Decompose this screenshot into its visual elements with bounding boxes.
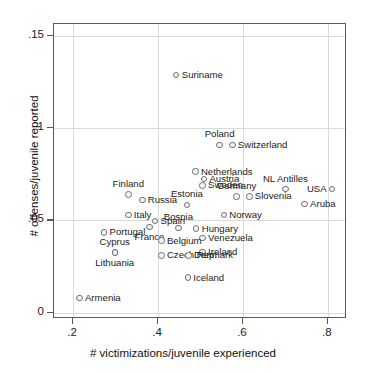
gridline-vertical — [158, 24, 159, 317]
gridline-horizontal — [54, 220, 345, 221]
data-point — [233, 193, 239, 199]
data-point-label: Lithuania — [95, 258, 134, 268]
data-point-label: Cyprus — [100, 238, 130, 248]
gridline-horizontal — [54, 36, 345, 37]
data-point — [146, 224, 152, 230]
plot-area: SurinamePolandSwitzerlandNetherlandsAust… — [53, 23, 346, 318]
data-point-label: Iceland — [193, 273, 224, 283]
y-tick-mark — [47, 127, 53, 128]
data-point-label: NL Antilles — [263, 174, 308, 184]
data-point — [125, 191, 131, 197]
data-point — [139, 197, 145, 203]
data-point — [112, 249, 118, 255]
data-point — [125, 212, 131, 218]
data-point — [175, 225, 181, 231]
data-point — [185, 252, 191, 258]
data-point — [216, 142, 222, 148]
data-point-label: Aruba — [310, 199, 336, 209]
data-point-label: Venezuela — [208, 233, 253, 243]
data-point — [173, 72, 179, 78]
data-point-label: Italy — [134, 210, 152, 220]
x-tick-mark — [242, 318, 243, 324]
data-point — [199, 182, 205, 188]
x-tick-label: .8 — [307, 326, 347, 338]
gridline-vertical — [73, 24, 74, 317]
data-point-label: Belgium — [167, 236, 202, 246]
gridline-horizontal — [54, 128, 345, 129]
data-point — [192, 168, 198, 174]
x-tick-mark — [157, 318, 158, 324]
scatter-plot-figure: SurinamePolandSwitzerlandNetherlandsAust… — [0, 0, 366, 373]
x-tick-mark — [72, 318, 73, 324]
y-tick-label: 0 — [14, 305, 44, 317]
data-point — [201, 176, 207, 182]
x-tick-label: .6 — [222, 326, 262, 338]
y-tick-mark — [47, 312, 53, 313]
data-point-label: Poland — [205, 130, 235, 140]
data-point — [184, 202, 190, 208]
x-tick-mark — [327, 318, 328, 324]
data-point-label: Finland — [113, 179, 144, 189]
data-point — [193, 225, 199, 231]
data-point-label: Bosnia — [164, 213, 193, 223]
gridline-horizontal — [54, 313, 345, 314]
x-axis-label: # victimizations/juvenile experienced — [0, 347, 366, 359]
y-tick-mark — [47, 35, 53, 36]
data-point-label: Slovenia — [255, 192, 292, 202]
data-point — [76, 295, 82, 301]
data-point — [185, 274, 191, 280]
data-point — [221, 212, 227, 218]
data-point — [301, 201, 307, 207]
data-point-label: Denmark — [194, 251, 233, 261]
y-axis-label: # offenses/juvenile reported — [28, 36, 40, 296]
gridline-vertical — [328, 24, 329, 317]
data-point — [329, 186, 335, 192]
data-point-label: Switzerland — [238, 140, 288, 150]
data-point — [229, 142, 235, 148]
data-point — [158, 252, 164, 258]
data-point-label: Norway — [229, 210, 262, 220]
data-point — [246, 193, 252, 199]
data-point-label: Estonia — [171, 190, 203, 200]
y-tick-mark — [47, 219, 53, 220]
data-point-label: Armenia — [85, 293, 121, 303]
x-tick-label: .2 — [52, 326, 92, 338]
x-tick-label: .4 — [137, 326, 177, 338]
data-point-label: USA — [307, 184, 327, 194]
data-point-label: Germany — [217, 181, 256, 191]
data-point — [158, 237, 164, 243]
data-point — [101, 229, 107, 235]
data-point-label: Suriname — [182, 70, 223, 80]
